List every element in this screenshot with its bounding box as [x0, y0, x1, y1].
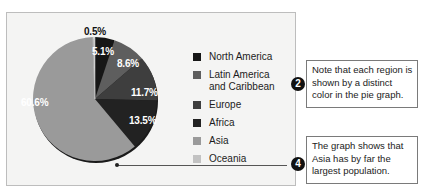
label-latin-america-pct: 8.6% — [117, 58, 139, 69]
legend-label: Asia — [209, 135, 228, 147]
callout-box-2: Note that each region is shown by a dist… — [306, 60, 418, 108]
legend-label: Oceania — [209, 153, 246, 165]
legend: North America Latin America and Caribbea… — [193, 51, 281, 171]
legend-swatch — [193, 137, 201, 145]
legend-label: Latin America and Caribbean — [209, 69, 281, 93]
legend-item: Asia — [193, 135, 281, 147]
legend-swatch — [193, 119, 201, 127]
legend-label: Africa — [209, 117, 235, 129]
legend-item: Latin America and Caribbean — [193, 69, 281, 93]
legend-swatch — [193, 71, 201, 79]
label-north-america-pct: 5.1% — [92, 46, 114, 57]
callout-box-4: The graph shows that Asia has by far the… — [306, 136, 418, 184]
legend-swatch — [193, 101, 201, 109]
leader-dot — [115, 163, 119, 167]
chart-panel: 0.5% 5.1% 8.6% 11.7% 13.5% 60.6% North A… — [6, 12, 296, 186]
legend-item: Oceania — [193, 153, 281, 165]
label-oceania-pct: 0.5% — [84, 26, 106, 37]
legend-swatch — [193, 53, 201, 61]
callout-number-badge: 2 — [291, 77, 305, 91]
label-europe-pct: 11.7% — [131, 87, 158, 98]
legend-item: North America — [193, 51, 281, 63]
label-asia-pct: 60.6% — [21, 97, 48, 108]
legend-label: North America — [209, 51, 272, 63]
legend-swatch — [193, 155, 201, 163]
label-africa-pct: 13.5% — [129, 115, 156, 126]
callout-text: Note that each region is shown by a dist… — [312, 64, 412, 100]
callout-leader-line — [117, 165, 287, 166]
legend-item: Europe — [193, 99, 281, 111]
callout-text: The graph shows that Asia has by far the… — [312, 140, 403, 176]
callout-number-badge: 4 — [291, 157, 305, 171]
legend-label: Europe — [209, 99, 241, 111]
legend-item: Africa — [193, 117, 281, 129]
